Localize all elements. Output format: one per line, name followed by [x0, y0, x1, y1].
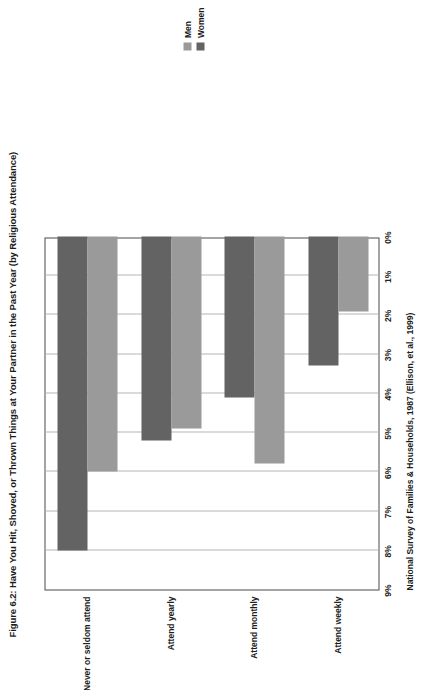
- legend-item-women: Women: [195, 7, 205, 50]
- gridline: [45, 510, 378, 511]
- figure-title: Figure 6.2: Have You Hit, Shoved, or Thr…: [6, 151, 17, 637]
- value-tick-label: 5%: [382, 427, 392, 439]
- legend-label-women: Women: [195, 7, 205, 38]
- chart-legend: Men Women: [182, 7, 205, 50]
- bar-women-2: [224, 236, 254, 397]
- bar-men-1: [171, 236, 201, 428]
- plot-area: [44, 237, 379, 590]
- category-label: Attend monthly: [248, 596, 258, 658]
- value-tick-label: 3%: [382, 349, 392, 361]
- category-label: Attend weekly: [332, 596, 342, 653]
- bar-men-0: [87, 236, 117, 471]
- bar-women-1: [141, 236, 171, 440]
- value-tick-label: 4%: [382, 388, 392, 400]
- bar-men-2: [254, 236, 284, 463]
- bar-women-0: [57, 236, 87, 550]
- source-note: National Survey of Families & Households…: [404, 312, 414, 590]
- bar-women-3: [308, 236, 338, 365]
- value-tick-label: 2%: [382, 309, 392, 321]
- value-tick-label: 9%: [382, 584, 392, 596]
- gridline: [45, 549, 378, 550]
- legend-label-men: Men: [182, 21, 192, 38]
- value-tick-label: 7%: [382, 505, 392, 517]
- legend-swatch-women: [196, 42, 204, 50]
- bar-men-3: [338, 236, 368, 311]
- value-tick-label: 1%: [382, 270, 392, 282]
- value-axis: 9%8%7%6%5%4%3%2%1%0%: [382, 237, 398, 590]
- value-tick-label: 0%: [382, 231, 392, 243]
- value-tick-label: 6%: [382, 466, 392, 478]
- legend-swatch-men: [183, 42, 191, 50]
- category-axis: Never or seldom attendAttend yearlyAtten…: [44, 593, 379, 645]
- category-label: Attend yearly: [165, 596, 175, 650]
- legend-item-men: Men: [182, 7, 192, 50]
- category-label: Never or seldom attend: [81, 596, 91, 690]
- value-tick-label: 8%: [382, 545, 392, 557]
